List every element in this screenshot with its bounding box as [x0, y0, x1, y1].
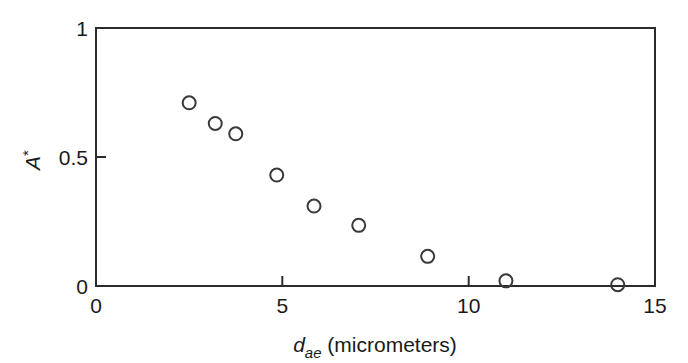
data-point [183, 96, 196, 109]
x-axis-title: dae (micrometers) [293, 333, 457, 361]
x-tick-label-15: 15 [643, 294, 666, 317]
y-tick-label-0: 0 [76, 275, 88, 298]
data-point [352, 219, 365, 232]
data-point [229, 127, 242, 140]
y-axis-title: A* [19, 150, 44, 172]
data-point [209, 117, 222, 130]
data-point [308, 200, 321, 213]
y-tick-label-0p5: 0.5 [59, 146, 88, 169]
scatter-plot-figure: 1 0.5 0 0 5 10 15 A* dae (micrometers) [0, 0, 688, 363]
y-tick-label-1: 1 [76, 17, 88, 40]
data-point [270, 169, 283, 182]
data-point [421, 250, 434, 263]
x-tick-label-5: 5 [276, 294, 288, 317]
x-tick-label-0: 0 [90, 294, 102, 317]
axis-frame [96, 28, 655, 286]
plot-canvas: 1 0.5 0 0 5 10 15 A* dae (micrometers) [0, 0, 688, 363]
x-axis-title-subscript: ae [305, 344, 322, 361]
svg-text:A*: A* [19, 150, 44, 172]
y-axis-title-symbol: A [21, 156, 44, 172]
data-point-group [183, 96, 625, 291]
x-axis-title-unit: (micrometers) [322, 333, 457, 356]
plot-border [96, 28, 655, 286]
data-point [611, 278, 624, 291]
x-axis-ticks [282, 276, 468, 286]
x-tick-label-10: 10 [457, 294, 480, 317]
y-axis-title-superscript: * [19, 150, 36, 156]
